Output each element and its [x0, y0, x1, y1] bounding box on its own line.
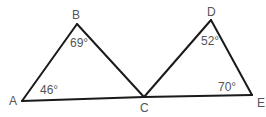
angle-label-a: 46° [40, 83, 58, 97]
angle-label-b: 69° [70, 36, 88, 50]
segment-cd [144, 20, 211, 97]
vertex-label-c: C [140, 101, 149, 115]
segment-bc [77, 24, 144, 97]
segment-ce [144, 95, 252, 97]
vertex-label-d: D [207, 5, 216, 19]
vertex-labels: A B C D E [9, 5, 265, 115]
geometry-diagram: A B C D E 69° 46° 52° 70° [0, 0, 266, 117]
angle-label-d: 52° [201, 34, 219, 48]
segment-ac [22, 97, 144, 101]
vertex-label-b: B [72, 8, 80, 22]
vertex-label-a: A [9, 94, 17, 108]
vertex-label-e: E [257, 96, 265, 110]
angle-labels: 69° 46° 52° 70° [40, 34, 236, 97]
angle-label-e: 70° [218, 80, 236, 94]
